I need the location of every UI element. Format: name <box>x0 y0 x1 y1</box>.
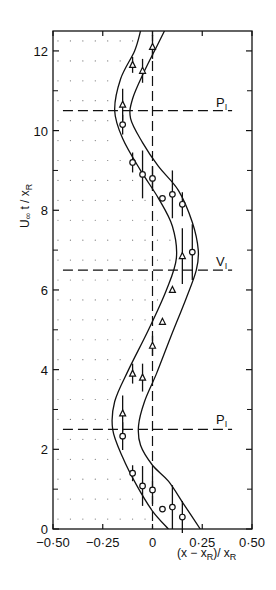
data-points <box>120 35 195 533</box>
x-tick-label: −0·50 <box>36 535 70 550</box>
dotted-shaded-region <box>57 40 170 519</box>
svg-text:VI: VI <box>216 254 227 271</box>
x-tick-label: −0·25 <box>86 535 120 550</box>
circle-marker <box>180 202 186 208</box>
circle-marker <box>190 249 196 255</box>
triangle-marker <box>169 286 175 292</box>
annotation-p-upper: PI <box>216 95 227 112</box>
y-tick-label: 4 <box>41 363 48 378</box>
triangle-marker <box>140 374 146 380</box>
triangle-marker <box>120 410 126 416</box>
circle-marker <box>130 470 136 476</box>
reference-lines <box>63 31 232 529</box>
circle-marker <box>150 487 156 493</box>
triangle-marker <box>150 43 156 49</box>
circle-marker <box>170 192 176 198</box>
right-envelope-curve <box>130 31 200 529</box>
y-tick-label: 12 <box>34 44 48 59</box>
circle-marker <box>140 172 146 178</box>
x-tick-label: 0·50 <box>239 535 265 550</box>
triangle-marker <box>120 101 126 107</box>
svg-text:U∞ t / xR: U∞ t / xR <box>18 183 34 228</box>
triangle-marker <box>159 318 165 324</box>
circle-marker <box>160 506 166 512</box>
y-tick-label: 10 <box>34 124 48 139</box>
triangle-marker <box>130 370 136 376</box>
circle-marker <box>120 122 126 128</box>
circle-marker <box>170 504 176 510</box>
circle-marker <box>180 514 186 520</box>
annotation-p-lower: PI <box>216 412 227 429</box>
triangle-marker <box>130 61 136 67</box>
circle-marker <box>160 196 166 202</box>
triangle-marker <box>140 67 146 73</box>
circle-marker <box>120 433 126 439</box>
circle-marker <box>130 160 136 166</box>
circle-marker <box>140 483 146 489</box>
y-axis-label: U∞ t / xR <box>18 183 34 228</box>
y-tick-label: 8 <box>41 203 48 218</box>
circle-marker <box>150 176 156 182</box>
y-tick-label: 2 <box>41 442 48 457</box>
triangle-marker <box>150 342 156 348</box>
svg-text:PI: PI <box>216 412 227 429</box>
annotation-v: VI <box>216 254 227 271</box>
triangle-marker <box>179 253 185 259</box>
x-tick-label: 0 <box>149 535 156 550</box>
y-tick-label: 6 <box>41 283 48 298</box>
chart-canvas: 024681012−0·50−0·2500·250·50 PI VI PI (x… <box>0 0 276 590</box>
svg-text:PI: PI <box>216 95 227 112</box>
axis-ticks: 024681012−0·50−0·2500·250·50 <box>34 31 265 550</box>
